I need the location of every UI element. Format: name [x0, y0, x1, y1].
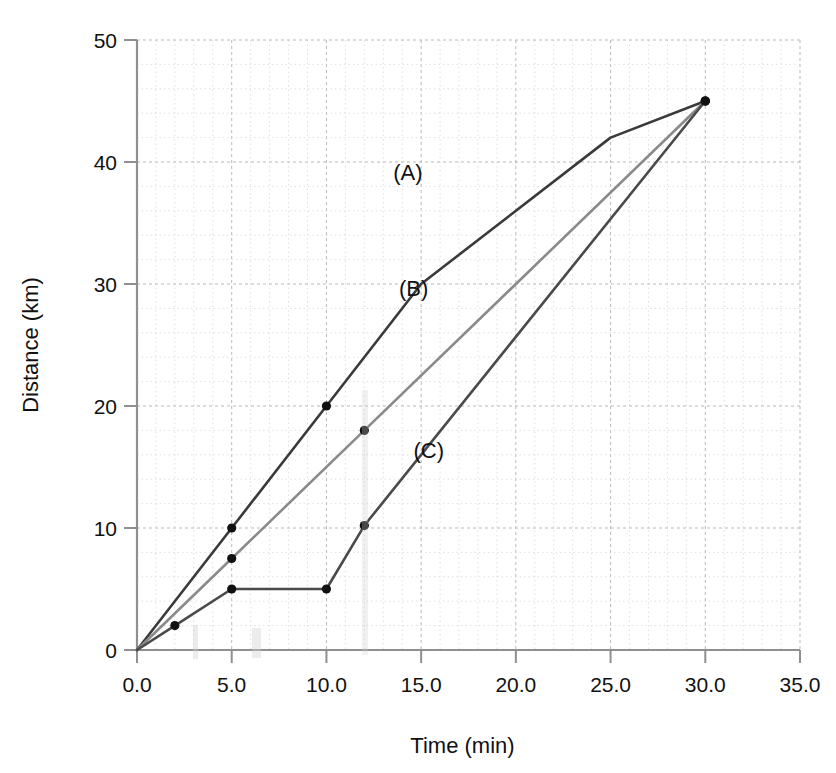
series-marker: [322, 401, 331, 410]
y-axis-tick-label: 40: [94, 151, 117, 174]
chart-canvas: 010203040500.05.010.015.020.025.030.035.…: [0, 0, 836, 773]
distance-time-chart: 010203040500.05.010.015.020.025.030.035.…: [0, 0, 836, 773]
series-marker: [170, 621, 179, 630]
series-annotation: (A): [393, 160, 422, 185]
x-axis-tick-label: 30.0: [685, 673, 726, 696]
x-axis-tick-label: 0.0: [122, 673, 151, 696]
x-axis-tick-label: 5.0: [217, 673, 246, 696]
series-marker: [322, 584, 331, 593]
x-axis-tick-label: 35.0: [780, 673, 821, 696]
y-axis-tick-label: 30: [94, 273, 117, 296]
series-marker: [227, 584, 236, 593]
y-axis-tick-label: 50: [94, 29, 117, 52]
series-marker: [227, 554, 236, 563]
y-axis-tick-label: 20: [94, 395, 117, 418]
x-axis-tick-label: 15.0: [401, 673, 442, 696]
series-marker: [227, 523, 236, 532]
scan-artifact: [193, 625, 198, 659]
scan-artifact: [362, 390, 368, 655]
series-annotation: (C): [413, 438, 444, 463]
x-axis-tick-label: 25.0: [590, 673, 631, 696]
x-axis-tick-label: 20.0: [495, 673, 536, 696]
x-axis-tick-label: 10.0: [306, 673, 347, 696]
scan-artifact: [252, 628, 261, 658]
y-axis-title: Distance (km): [18, 277, 43, 413]
series-annotation: (B): [399, 276, 428, 301]
x-axis-title: Time (min): [410, 733, 514, 758]
series-marker: [701, 96, 710, 105]
y-axis-tick-label: 0: [105, 639, 117, 662]
y-axis-tick-label: 10: [94, 517, 117, 540]
